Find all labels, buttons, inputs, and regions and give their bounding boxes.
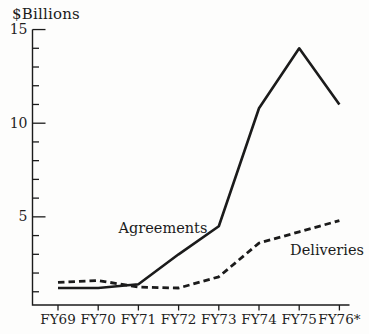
chart: $Billions 51015FY69FY70FY71FY72FY73FY74F… [0,0,369,334]
x-tick-label: FY69 [40,311,75,327]
x-tick-label: FY76* [318,311,360,327]
x-tick-label: FY75 [281,311,316,327]
y-tick-label: 15 [10,21,28,37]
x-tick-label: FY71 [121,311,156,327]
series-label-agreements: Agreements [119,220,208,236]
x-tick-label: FY73 [201,311,236,327]
chart-canvas: 51015FY69FY70FY71FY72FY73FY74FY75FY76* [0,0,369,334]
axes [33,30,350,305]
y-tick-label: 10 [10,115,28,131]
series-label-deliveries: Deliveries [290,242,364,258]
y-tick-label: 5 [19,208,28,224]
x-tick-label: FY72 [161,311,196,327]
x-tick-label: FY70 [80,311,115,327]
y-axis-unit-label: $Billions [12,5,80,23]
x-tick-label: FY74 [241,311,276,327]
